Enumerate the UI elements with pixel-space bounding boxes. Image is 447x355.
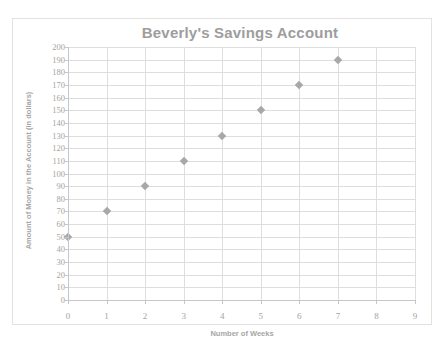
y-tick-mark <box>65 60 68 61</box>
y-tick-mark <box>65 186 68 187</box>
gridline-horizontal <box>68 98 415 99</box>
gridline-horizontal <box>68 136 415 137</box>
y-tick-mark <box>65 136 68 137</box>
y-axis-line <box>68 47 69 301</box>
y-tick-mark <box>65 123 68 124</box>
y-tick-label: 30 <box>35 258 65 267</box>
gridline-horizontal <box>68 249 415 250</box>
data-point-marker <box>334 55 342 63</box>
data-point-marker <box>179 157 187 165</box>
y-tick-label: 130 <box>35 132 65 141</box>
y-tick-label: 10 <box>35 283 65 292</box>
y-tick-label: 150 <box>35 106 65 115</box>
y-tick-label: 180 <box>35 68 65 77</box>
y-tick-mark <box>65 287 68 288</box>
x-tick-mark <box>184 300 185 304</box>
gridline-horizontal <box>68 186 415 187</box>
y-tick-mark <box>65 98 68 99</box>
x-tick-mark <box>107 300 108 304</box>
x-tick-mark <box>68 300 69 304</box>
y-tick-label: 160 <box>35 94 65 103</box>
y-axis-tick-labels: 2001901801701601501401301201101009080706… <box>34 47 65 300</box>
gridline-horizontal <box>68 275 415 276</box>
x-tick-mark <box>338 300 339 304</box>
y-tick-label: 140 <box>35 119 65 128</box>
x-tick-mark <box>415 300 416 304</box>
y-tick-label: 80 <box>35 195 65 204</box>
y-tick-mark <box>65 148 68 149</box>
y-tick-label: 20 <box>35 271 65 280</box>
gridline-horizontal <box>68 72 415 73</box>
chart-title: Beverly's Savings Account <box>60 24 420 41</box>
y-tick-mark <box>65 275 68 276</box>
y-tick-mark <box>65 224 68 225</box>
y-tick-label: 50 <box>35 233 65 242</box>
y-tick-mark <box>65 72 68 73</box>
y-axis-title: Amount of Money in the Account (in dolla… <box>24 56 33 286</box>
x-tick-label: 3 <box>174 311 194 321</box>
data-point-marker <box>257 106 265 114</box>
gridline-vertical <box>338 47 339 300</box>
y-tick-mark <box>65 237 68 238</box>
y-tick-label: 100 <box>35 170 65 179</box>
gridline-horizontal <box>68 148 415 149</box>
gridline-vertical <box>415 47 416 300</box>
x-tick-label: 0 <box>58 311 78 321</box>
x-tick-label: 9 <box>405 311 425 321</box>
y-tick-label: 60 <box>35 220 65 229</box>
gridline-horizontal <box>68 262 415 263</box>
gridline-vertical <box>184 47 185 300</box>
y-tick-label: 40 <box>35 245 65 254</box>
gridline-horizontal <box>68 199 415 200</box>
gridline-vertical <box>222 47 223 300</box>
y-tick-mark <box>65 262 68 263</box>
gridline-horizontal <box>68 60 415 61</box>
y-tick-mark <box>65 110 68 111</box>
gridline-horizontal <box>68 85 415 86</box>
x-tick-mark <box>261 300 262 304</box>
data-point-marker <box>295 81 303 89</box>
y-tick-label: 120 <box>35 144 65 153</box>
x-axis-title: Number of Weeks <box>68 329 416 338</box>
x-tick-mark <box>222 300 223 304</box>
x-tick-mark <box>299 300 300 304</box>
gridline-horizontal <box>68 287 415 288</box>
data-point-marker <box>102 207 110 215</box>
x-tick-label: 4 <box>212 311 232 321</box>
y-tick-mark <box>65 174 68 175</box>
x-tick-label: 6 <box>289 311 309 321</box>
gridline-vertical <box>107 47 108 300</box>
y-tick-mark <box>65 85 68 86</box>
y-tick-label: 200 <box>35 43 65 52</box>
gridline-vertical <box>145 47 146 300</box>
y-tick-mark <box>65 47 68 48</box>
chart-screenshot: Beverly's Savings Account Amount of Mone… <box>0 0 447 355</box>
gridline-horizontal <box>68 47 415 48</box>
y-tick-mark <box>65 199 68 200</box>
gridline-horizontal <box>68 224 415 225</box>
gridline-horizontal <box>68 161 415 162</box>
x-tick-mark <box>376 300 377 304</box>
gridline-vertical <box>261 47 262 300</box>
y-tick-label: 70 <box>35 207 65 216</box>
y-tick-label: 90 <box>35 182 65 191</box>
x-tick-mark <box>145 300 146 304</box>
x-tick-label: 2 <box>135 311 155 321</box>
x-tick-label: 1 <box>97 311 117 321</box>
x-axis-tick-labels: 0123456789 <box>68 307 416 321</box>
y-tick-mark <box>65 249 68 250</box>
gridline-horizontal <box>68 237 415 238</box>
gridline-horizontal <box>68 211 415 212</box>
x-tick-label: 8 <box>366 311 386 321</box>
gridline-horizontal <box>68 110 415 111</box>
data-point-marker <box>141 182 149 190</box>
x-tick-label: 5 <box>251 311 271 321</box>
plot-area <box>68 47 415 300</box>
gridline-vertical <box>376 47 377 300</box>
y-tick-label: 190 <box>35 56 65 65</box>
gridline-horizontal <box>68 174 415 175</box>
y-tick-label: 170 <box>35 81 65 90</box>
x-axis-line <box>68 300 416 301</box>
y-tick-label: 0 <box>35 296 65 305</box>
y-tick-mark <box>65 161 68 162</box>
